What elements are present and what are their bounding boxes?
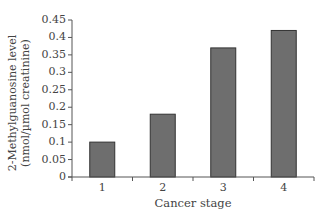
- bar-chart: 2-Methylguanosine level (nmol/µmol creat…: [0, 0, 327, 215]
- bar-stage-3: [211, 48, 236, 177]
- y-tick-label: 0.2: [26, 101, 66, 112]
- x-tick-label: 2: [148, 181, 178, 194]
- y-tick-label: 0.1: [26, 136, 66, 147]
- y-tick-label: 0.25: [26, 84, 66, 95]
- y-tick-label: 0.4: [26, 31, 66, 42]
- x-tick-label: 3: [208, 181, 238, 194]
- y-axis-title-line-1: 2-Methylguanosine level: [6, 28, 19, 178]
- y-tick-label: 0: [26, 171, 66, 182]
- x-tick-label: 4: [269, 181, 299, 194]
- y-tick-label: 0.05: [26, 154, 66, 165]
- bar-stage-2: [150, 114, 175, 177]
- y-tick-label: 0.15: [26, 119, 66, 130]
- y-tick-label: 0.45: [26, 14, 66, 25]
- x-tick-label: 1: [87, 181, 117, 194]
- y-tick-label: 0.3: [26, 66, 66, 77]
- bar-stage-1: [90, 142, 115, 177]
- x-axis-title: Cancer stage: [72, 196, 314, 210]
- bar-stage-4: [271, 30, 296, 177]
- y-tick-label: 0.35: [26, 49, 66, 60]
